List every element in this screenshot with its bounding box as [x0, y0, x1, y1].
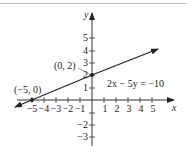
svg-text:5: 5: [83, 32, 88, 43]
svg-text:−4: −4: [39, 103, 50, 114]
equation-line: [92, 49, 158, 75]
point-0-2: [90, 73, 94, 77]
svg-text:3: 3: [83, 57, 88, 68]
svg-text:1: 1: [103, 103, 108, 114]
point-neg5-0: [30, 98, 34, 102]
svg-text:−2: −2: [77, 119, 88, 130]
point-label-neg5-0: (−5, 0): [14, 84, 41, 96]
svg-text:4: 4: [139, 103, 144, 114]
svg-text:2: 2: [115, 103, 120, 114]
svg-text:3: 3: [127, 103, 132, 114]
x-axis-label: x: [171, 102, 177, 113]
y-tick-labels: 5 4 3 2 1 −2 −3: [77, 32, 88, 142]
y-axis-label: y: [83, 9, 89, 20]
svg-text:1: 1: [83, 82, 88, 93]
svg-text:−5: −5: [27, 103, 38, 114]
graph: −5 −4 −3 −2 −1 1 2 3 4 5 5 4 3 2 1 −2 −3…: [0, 0, 187, 156]
svg-text:−1: −1: [75, 103, 86, 114]
x-tick-labels: −5 −4 −3 −2 −1 1 2 3 4 5: [27, 103, 156, 114]
svg-text:5: 5: [151, 103, 156, 114]
svg-text:4: 4: [83, 45, 88, 56]
svg-text:−2: −2: [63, 103, 74, 114]
point-label-0-2: (0, 2): [54, 60, 76, 72]
svg-text:−3: −3: [77, 131, 88, 142]
svg-text:−3: −3: [51, 103, 62, 114]
equation-label: 2x − 5y = −10: [107, 78, 164, 89]
